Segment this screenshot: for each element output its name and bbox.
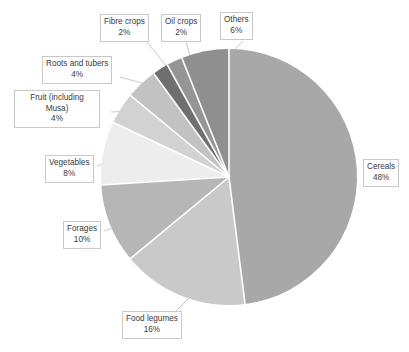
callout-others[interactable]: Others 6% — [220, 12, 253, 40]
callout-label-vegetables: Vegetables — [49, 158, 90, 169]
callout-fruit[interactable]: Fruit (including Musa) 4% — [14, 90, 100, 128]
callout-label-oil-crops: Oil crops — [165, 17, 197, 28]
callout-food-legumes[interactable]: Food legumes 16% — [122, 311, 182, 339]
callout-oil-crops[interactable]: Oil crops 2% — [161, 14, 201, 42]
callout-cereals[interactable]: Cereals 48% — [363, 159, 399, 187]
callout-value-fibre-crops: 2% — [104, 28, 145, 39]
callout-label-food-legumes: Food legumes — [126, 314, 178, 325]
callout-label-roots-and-tubers: Roots and tubers — [46, 59, 108, 70]
callout-label-forages: Forages — [67, 224, 97, 235]
pie-slice-cereals[interactable] — [229, 49, 357, 304]
callout-label-others: Others — [224, 15, 249, 26]
callout-value-forages: 10% — [67, 235, 97, 246]
callout-roots-and-tubers[interactable]: Roots and tubers 4% — [42, 56, 112, 84]
callout-forages[interactable]: Forages 10% — [63, 221, 101, 249]
callout-value-food-legumes: 16% — [126, 325, 178, 336]
callout-fibre-crops[interactable]: Fibre crops 2% — [100, 14, 149, 42]
pie-chart-figure: Fibre crops 2% Oil crops 2% Others 6% Ro… — [0, 0, 409, 352]
callout-label-cereals: Cereals — [367, 162, 395, 173]
callout-vegetables[interactable]: Vegetables 8% — [45, 155, 94, 183]
callout-value-cereals: 48% — [367, 173, 395, 184]
callout-value-others: 6% — [224, 26, 249, 37]
callout-value-vegetables: 8% — [49, 169, 90, 180]
callout-label-fruit: Fruit (including Musa) — [18, 93, 96, 114]
callout-value-oil-crops: 2% — [165, 28, 197, 39]
callout-value-roots-and-tubers: 4% — [46, 70, 108, 81]
callout-label-fibre-crops: Fibre crops — [104, 17, 145, 28]
callout-value-fruit: 4% — [18, 114, 96, 125]
